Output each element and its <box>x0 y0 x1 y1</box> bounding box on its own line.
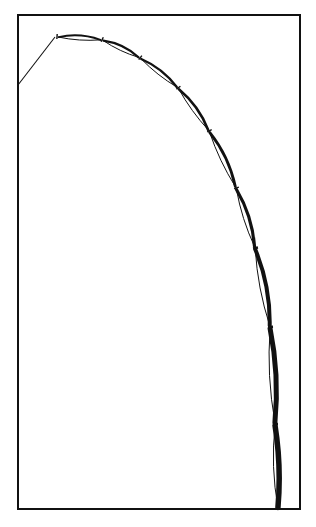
segment-inner-edge <box>210 132 236 186</box>
segment-outer-edge <box>255 250 269 326</box>
joint-markers <box>57 34 278 424</box>
arch-segments <box>59 35 280 507</box>
frame <box>18 15 300 509</box>
segment-inner-edge <box>179 89 208 129</box>
segment-outer-edge <box>59 35 101 40</box>
segment-inner-edge <box>103 41 138 58</box>
lead-line <box>18 37 55 85</box>
segment-outer-edge <box>103 41 138 58</box>
joint-mark <box>253 247 258 248</box>
segment-outer-edge <box>179 89 208 129</box>
segment-outer-edge <box>141 59 176 87</box>
arch-drawing <box>0 0 316 527</box>
segment-outer-edge <box>210 132 236 186</box>
segment-outer-edge <box>270 329 276 423</box>
segment-inner-edge <box>141 59 176 87</box>
segment-outer-edge <box>236 190 254 247</box>
segment-inner-edge <box>236 190 254 247</box>
